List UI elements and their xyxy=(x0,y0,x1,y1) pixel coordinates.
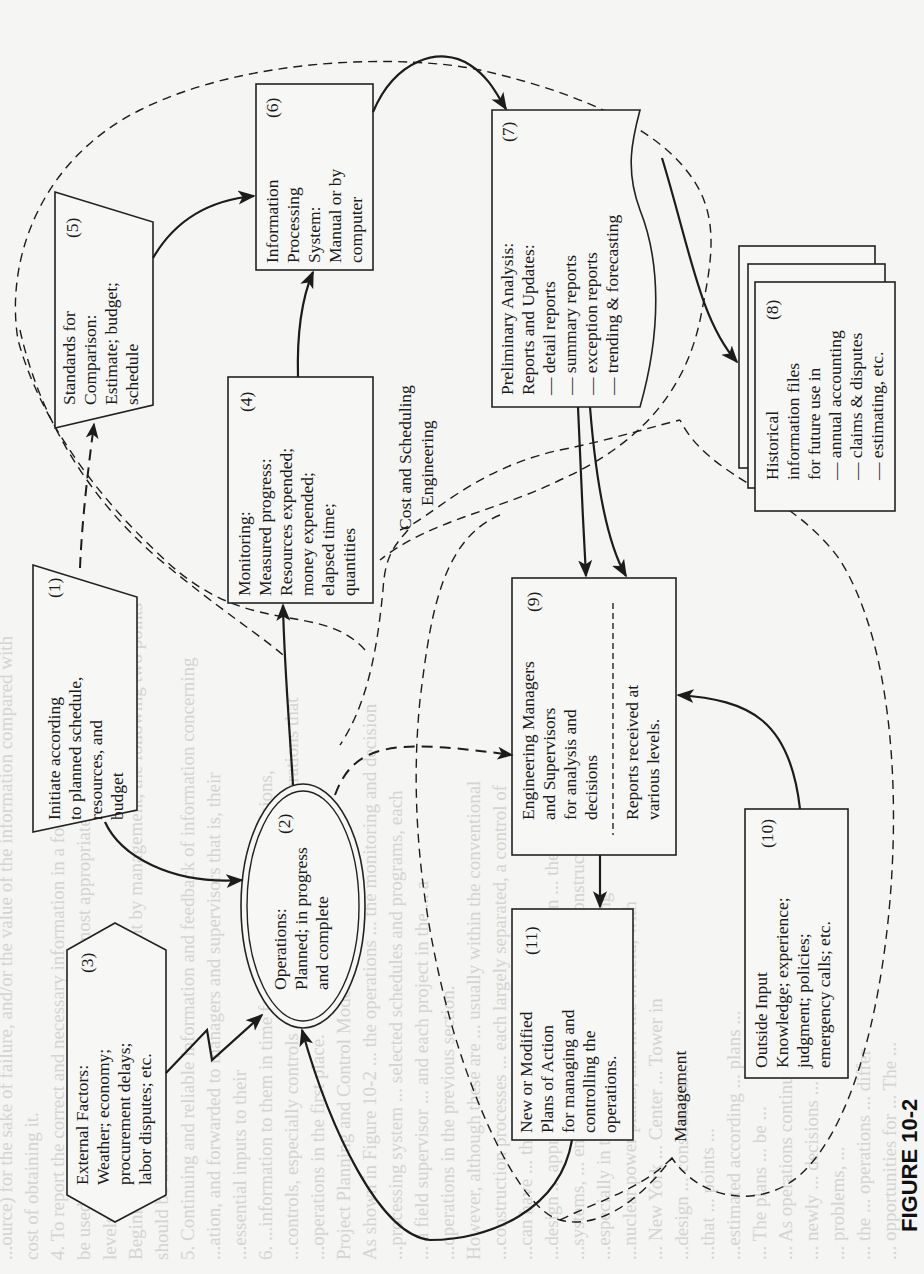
node-2-number: (2) xyxy=(274,813,294,834)
bleed-line: ...processing system ... selected schedu… xyxy=(385,790,406,1260)
bleed-line: ... The plans ... be ... xyxy=(749,1106,770,1260)
node-7-number: (7) xyxy=(498,121,518,142)
bleed-line: ... problems, ... xyxy=(827,1147,848,1260)
bleed-line: cost of obtaining it. xyxy=(21,1112,42,1260)
scanned-figure-page: ...ource) for the sake of failure, and/o… xyxy=(0,0,924,1274)
bleed-line: ... a field supervisor ... and each proj… xyxy=(411,881,432,1260)
node-8-number: (8) xyxy=(762,299,782,320)
bleed-line: ...ation, and forwarded to managers and … xyxy=(203,772,224,1260)
edge-5-to-6 xyxy=(153,196,254,258)
edge-6-to-7 xyxy=(373,56,506,112)
edge-1-to-5 xyxy=(80,424,94,568)
bleed-line: ...construction processes ... each large… xyxy=(489,784,510,1260)
bleed-line: ...that ... points ... xyxy=(697,1128,718,1260)
bleed-line: ...ource) for the sake of failure, and/o… xyxy=(0,635,17,1260)
node-9-number: (9) xyxy=(523,591,543,612)
edge-7-to-9b xyxy=(590,407,626,576)
bleed-line: ...essential inputs to their xyxy=(229,1069,250,1260)
node-1-number: (1) xyxy=(44,577,64,598)
region-cost-scheduling-label: Cost and Scheduling Engineering xyxy=(395,381,437,530)
edge-7-to-8 xyxy=(662,158,737,362)
node-5-number: (5) xyxy=(62,217,82,238)
node-4-number: (4) xyxy=(236,391,256,412)
node-11-number: (11) xyxy=(521,926,541,955)
node-3-number: (3) xyxy=(77,952,97,973)
node-10-number: (10) xyxy=(757,819,777,848)
bleed-line: Project Planning and Control Model xyxy=(333,985,354,1260)
edge-10-to-9 xyxy=(678,695,800,809)
edge-4-to-6 xyxy=(298,272,313,377)
bleed-line: ...operations in the first place. xyxy=(307,1034,328,1260)
bleed-line: ...estimated according ... plans ... xyxy=(723,1010,744,1260)
bleed-line: 5. Continuing and reliable information a… xyxy=(177,657,198,1260)
bleed-line: ...operations in the previous section. xyxy=(437,986,458,1260)
node-6-number: (6) xyxy=(262,97,282,118)
figure-caption: FIGURE 10-2 xyxy=(897,1099,922,1232)
bleed-line: However, although these are ... usually … xyxy=(463,781,484,1260)
bleed-line: ... the ... operations ... differ xyxy=(853,1049,874,1260)
cost-scheduling-hook xyxy=(400,420,680,530)
edge-7-to-9a xyxy=(578,407,586,576)
bleed-line: ... New York ... Center ... Tower in xyxy=(645,998,666,1260)
region-management-label: Management xyxy=(670,1051,690,1142)
